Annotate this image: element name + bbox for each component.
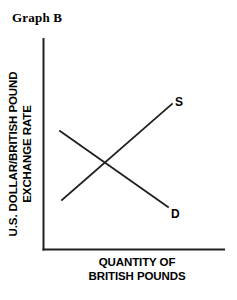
graph-figure: Graph B U.S. DOLLAR/BRITISH POUND EXCHAN… (0, 0, 237, 300)
x-axis-label: QUANTITY OF BRITISH POUNDS (44, 255, 230, 283)
supply-curve (62, 104, 172, 200)
demand-curve (60, 131, 168, 207)
x-axis-label-line-1: QUANTITY OF (44, 255, 230, 269)
supply-curve-label: S (175, 96, 183, 108)
demand-curve-label: D (171, 208, 180, 220)
x-axis-label-line-2: BRITISH POUNDS (44, 269, 230, 283)
